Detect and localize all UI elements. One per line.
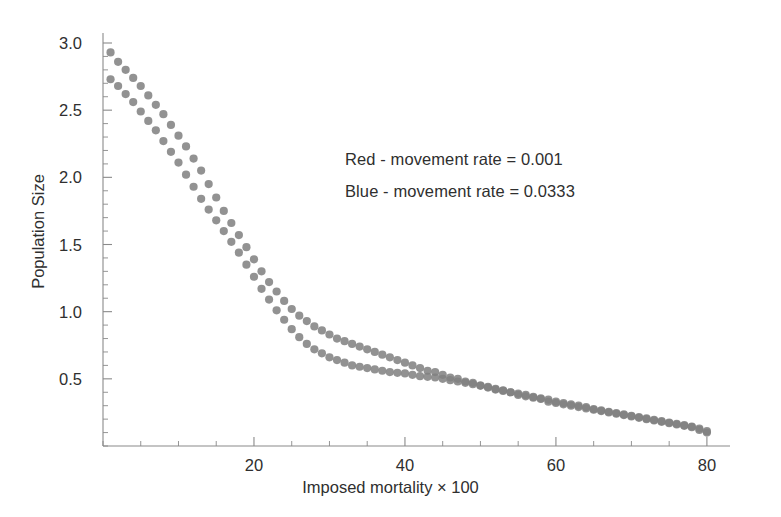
- y-tick-label: 2.5: [36, 101, 82, 120]
- data-point: [695, 424, 703, 432]
- data-point: [371, 348, 379, 356]
- data-point: [212, 193, 220, 201]
- x-tick-label: 40: [396, 456, 414, 475]
- data-point: [605, 408, 613, 416]
- data-point: [544, 396, 552, 404]
- data-point: [257, 267, 265, 275]
- data-point: [318, 326, 326, 334]
- data-point: [114, 82, 122, 90]
- data-point: [174, 132, 182, 140]
- data-point: [318, 349, 326, 357]
- data-point: [658, 417, 666, 425]
- chart-figure: 204060800.51.01.52.02.53.0 Red - movemen…: [0, 0, 781, 517]
- data-point: [507, 388, 515, 396]
- data-point: [212, 216, 220, 224]
- data-point: [310, 345, 318, 353]
- data-point: [220, 207, 228, 215]
- data-point: [167, 148, 175, 156]
- data-point: [680, 421, 688, 429]
- data-point: [340, 337, 348, 345]
- data-point: [590, 405, 598, 413]
- data-point: [371, 365, 379, 373]
- data-point: [129, 98, 137, 106]
- data-point: [280, 297, 288, 305]
- x-tick-label: 20: [245, 456, 263, 475]
- data-point: [348, 340, 356, 348]
- data-point: [703, 427, 711, 435]
- data-point: [401, 359, 409, 367]
- data-point: [152, 126, 160, 134]
- data-point: [688, 422, 696, 430]
- data-point: [484, 383, 492, 391]
- data-point: [288, 325, 296, 333]
- data-point: [182, 142, 190, 150]
- data-point: [582, 403, 590, 411]
- data-point: [454, 377, 462, 385]
- legend-entry-red: Red - movement rate = 0.001: [345, 150, 563, 169]
- data-point: [665, 418, 673, 426]
- data-point: [189, 154, 197, 162]
- data-point: [416, 364, 424, 372]
- data-point: [612, 409, 620, 417]
- data-point: [227, 219, 235, 227]
- data-point: [408, 361, 416, 369]
- data-point: [295, 312, 303, 320]
- data-point: [597, 406, 605, 414]
- data-point: [650, 416, 658, 424]
- data-point: [235, 248, 243, 256]
- data-point: [280, 316, 288, 324]
- data-point: [386, 368, 394, 376]
- data-point: [386, 353, 394, 361]
- x-tick-label: 80: [698, 456, 716, 475]
- data-point: [491, 385, 499, 393]
- data-point: [348, 361, 356, 369]
- data-point: [303, 317, 311, 325]
- axis-group: [103, 33, 730, 446]
- data-point: [265, 278, 273, 286]
- data-point: [378, 351, 386, 359]
- data-point: [552, 398, 560, 406]
- data-point: [220, 227, 228, 235]
- data-point: [635, 413, 643, 421]
- data-point: [250, 273, 258, 281]
- data-point: [310, 322, 318, 330]
- data-point: [114, 58, 122, 66]
- data-point: [144, 91, 152, 99]
- data-point: [529, 393, 537, 401]
- data-point: [325, 330, 333, 338]
- data-point: [333, 356, 341, 364]
- data-point: [205, 205, 213, 213]
- data-points-group: [106, 48, 711, 436]
- data-point: [574, 402, 582, 410]
- data-point: [431, 373, 439, 381]
- data-point: [446, 376, 454, 384]
- legend-entry-blue: Blue - movement rate = 0.0333: [345, 182, 575, 201]
- data-point: [257, 285, 265, 293]
- data-point: [122, 66, 130, 74]
- data-point: [424, 373, 432, 381]
- data-point: [159, 110, 167, 118]
- data-point: [295, 333, 303, 341]
- data-point: [356, 342, 364, 350]
- data-point: [265, 295, 273, 303]
- data-point: [537, 394, 545, 402]
- series-blue: [106, 75, 711, 435]
- data-point: [273, 306, 281, 314]
- data-point: [273, 287, 281, 295]
- data-point: [242, 243, 250, 251]
- x-axis-title: Imposed mortality × 100: [0, 478, 781, 497]
- data-point: [129, 74, 137, 82]
- data-point: [144, 117, 152, 125]
- scatter-plot-canvas: [0, 0, 781, 517]
- data-point: [122, 90, 130, 98]
- data-point: [416, 372, 424, 380]
- data-point: [189, 183, 197, 191]
- data-point: [152, 101, 160, 109]
- y-axis-title: Population Size: [29, 132, 48, 332]
- y-tick-label: 3.0: [36, 34, 82, 53]
- data-point: [378, 367, 386, 375]
- data-point: [393, 369, 401, 377]
- data-point: [303, 340, 311, 348]
- data-point: [197, 195, 205, 203]
- data-point: [174, 158, 182, 166]
